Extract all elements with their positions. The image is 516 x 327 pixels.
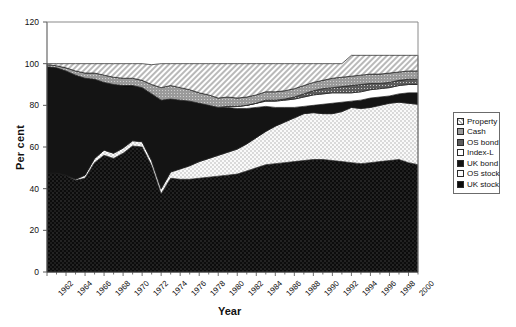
legend-swatch-icon	[457, 181, 464, 188]
y-tick-label: 120	[15, 17, 39, 27]
legend-swatch-icon	[457, 160, 464, 167]
y-tick-label: 40	[15, 184, 39, 194]
y-tick-label: 100	[15, 59, 39, 69]
legend-item-label: Index-L	[467, 148, 494, 157]
legend-swatch-icon	[457, 139, 464, 146]
legend-item[interactable]: Cash	[457, 127, 495, 137]
chart-legend: PropertyCashOS bondIndex-LUK bondOS stoc…	[453, 112, 500, 194]
stacked-area-chart: Per cent Year	[0, 0, 516, 327]
y-tick-label: 0	[15, 267, 39, 277]
legend-item-label: UK stock	[467, 180, 499, 189]
legend-item-label: Property	[467, 117, 497, 126]
y-tick-label: 60	[15, 142, 39, 152]
legend-item[interactable]: Index-L	[457, 148, 495, 158]
y-tick-label: 80	[15, 100, 39, 110]
legend-item-label: Cash	[467, 127, 486, 136]
legend-swatch-icon	[457, 149, 464, 156]
y-tick-label: 20	[15, 225, 39, 235]
legend-item[interactable]: OS bond	[457, 137, 495, 147]
legend-item-label: OS bond	[467, 138, 499, 147]
legend-item[interactable]: UK stock	[457, 179, 495, 189]
legend-swatch-icon	[457, 118, 464, 125]
legend-swatch-icon	[457, 128, 464, 135]
legend-item-label: OS stock	[467, 169, 499, 178]
legend-item[interactable]: UK bond	[457, 158, 495, 168]
legend-item[interactable]: Property	[457, 116, 495, 126]
legend-item-label: UK bond	[467, 159, 498, 168]
legend-item[interactable]: OS stock	[457, 169, 495, 179]
legend-swatch-icon	[457, 170, 464, 177]
